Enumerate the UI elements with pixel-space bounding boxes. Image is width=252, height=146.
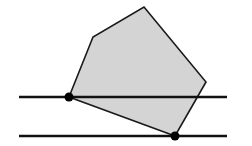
convex-polygon: [69, 7, 206, 136]
polygon-between-parallel-lines-diagram: [0, 0, 252, 146]
contact-point-upper: [65, 93, 74, 102]
contact-point-lower: [171, 132, 180, 141]
